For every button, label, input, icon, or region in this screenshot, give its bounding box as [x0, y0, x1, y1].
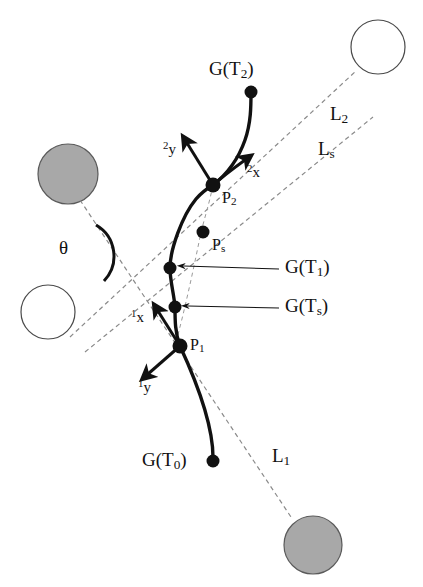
guide-chord-p2-p1 — [177, 185, 213, 338]
node-g-t2 — [245, 86, 258, 99]
obstacle-circle-top-right — [351, 20, 405, 74]
obstacle-circle-bottom-right — [284, 516, 342, 574]
label-frame1-x-axis: 1x — [131, 308, 144, 325]
label-ps: Ps — [212, 237, 225, 255]
label-line-ls: Ls — [318, 139, 335, 160]
label-g-t0: G(T0) — [142, 450, 187, 471]
label-frame2-x-axis: 2x — [247, 163, 260, 180]
theta-angle-arc — [96, 225, 114, 281]
node-ps — [197, 226, 210, 239]
node-g-t1 — [164, 262, 177, 275]
diagram-canvas: G(T2) L2 Ls 2y 2x P2 Ps θ G(T1) G(Ts) 1x… — [0, 0, 423, 587]
diagram-vector-layer — [0, 0, 423, 587]
label-g-t2: G(T2) — [209, 59, 254, 80]
node-p2 — [206, 178, 221, 193]
obstacle-circle-lower-left — [21, 285, 75, 339]
obstacle-circle-mid-left — [38, 144, 98, 204]
trajectory-curve — [170, 92, 251, 461]
node-g-ts — [169, 301, 182, 314]
label-g-t1: G(T1) — [285, 257, 330, 278]
node-p1 — [173, 339, 188, 354]
label-frame2-y-axis: 2y — [163, 140, 176, 157]
label-line-l2: L2 — [330, 104, 348, 125]
label-line-l1: L1 — [272, 446, 290, 467]
leader-line-gt1 — [184, 266, 279, 269]
leader-line-gts — [188, 306, 279, 308]
label-g-ts: G(Ts) — [285, 296, 328, 317]
node-g-t0 — [207, 455, 220, 468]
label-frame1-y-axis: 1y — [138, 378, 151, 395]
label-p1: P1 — [190, 337, 205, 355]
label-theta: θ — [59, 238, 68, 257]
label-p2: P2 — [222, 190, 237, 208]
